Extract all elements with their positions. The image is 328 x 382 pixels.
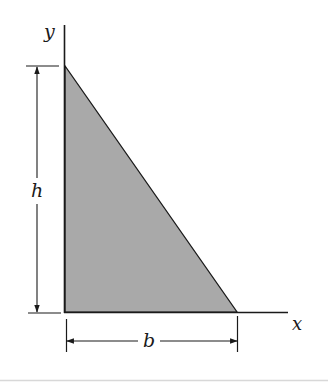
base-label: b	[143, 329, 155, 351]
triangle-area	[65, 66, 237, 312]
height-label: h	[31, 179, 43, 201]
triangle-diagram: h b y x	[0, 0, 328, 382]
x-axis-label: x	[292, 313, 302, 334]
y-axis-label: y	[43, 20, 55, 42]
